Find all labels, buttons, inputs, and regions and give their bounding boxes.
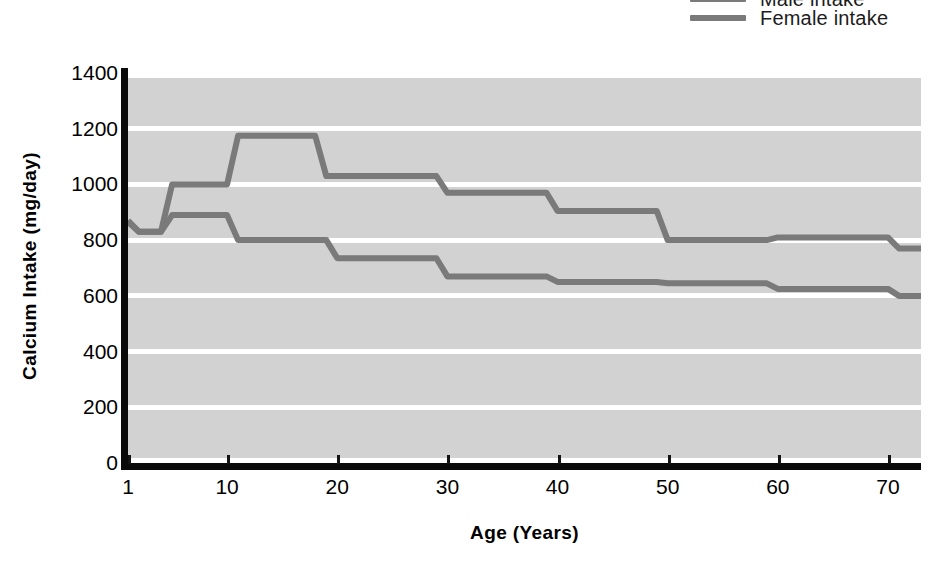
x-tick-label: 20 [307, 476, 367, 497]
data-series-layer [128, 73, 921, 463]
chart-legend: Male intake Female intake [690, 0, 934, 38]
x-tick-mark [128, 455, 131, 464]
y-tick-label: 1000 [8, 173, 118, 194]
legend-label-female: Female intake [760, 7, 888, 30]
x-tick-label: 1 [98, 476, 158, 497]
x-tick-label: 40 [528, 476, 588, 497]
y-tick-label: 600 [8, 285, 118, 306]
y-tick-label: 0 [8, 452, 118, 473]
x-axis-title: Age (Years) [128, 522, 921, 544]
legend-swatch-female [690, 15, 746, 21]
x-tick-label: 60 [748, 476, 808, 497]
y-tick-label: 1200 [8, 118, 118, 139]
y-tick-label: 400 [8, 341, 118, 362]
x-tick-mark [558, 455, 561, 464]
y-tick-label: 200 [8, 396, 118, 417]
y-tick-label: 1400 [8, 62, 118, 83]
x-tick-mark [447, 455, 450, 464]
x-tick-mark [337, 455, 340, 464]
x-tick-label: 30 [417, 476, 477, 497]
legend-entry-female: Female intake [690, 9, 888, 27]
x-tick-label: 70 [858, 476, 918, 497]
x-tick-mark [778, 455, 781, 464]
x-tick-mark [227, 455, 230, 464]
y-axis-line [121, 68, 128, 468]
x-tick-mark [888, 455, 891, 464]
series-line-female-intake [128, 215, 921, 296]
x-axis-line [121, 463, 921, 470]
x-tick-mark [668, 455, 671, 464]
legend-swatch-male [690, 0, 746, 2]
x-tick-label: 10 [197, 476, 257, 497]
series-line-male-intake [128, 136, 921, 249]
chart-container: Male intake Female intake Calcium Intake… [0, 0, 934, 563]
y-tick-label: 800 [8, 229, 118, 250]
x-tick-label: 50 [638, 476, 698, 497]
